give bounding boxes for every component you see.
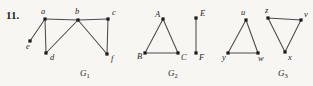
vertex-f <box>105 52 108 55</box>
vertex-group: abcedf <box>26 6 116 63</box>
graph-edge-u-y <box>228 20 246 53</box>
vertex-y <box>226 51 229 54</box>
vertex-label-z: z <box>264 5 269 15</box>
graph-G2: ABCEFG2 <box>137 8 206 79</box>
vertex-d <box>44 51 47 54</box>
graph-edge-b-f <box>78 20 107 54</box>
vertex-label-A: A <box>154 9 161 19</box>
vertex-F <box>194 51 197 54</box>
graph-G1: abcedfG1 <box>26 6 116 79</box>
figure-page: 11. abcedfG1ABCEFG2uywzvxG3 <box>0 0 313 86</box>
vertex-label-B: B <box>137 51 142 61</box>
vertex-label-y: y <box>221 52 226 62</box>
vertex-label-f: f <box>111 53 115 63</box>
vertex-label-a: a <box>41 6 45 16</box>
graph-caption-subscript-G3: 3 <box>285 72 288 79</box>
vertex-label-F: F <box>198 52 205 62</box>
vertex-x <box>283 50 286 53</box>
problem-number: 11. <box>6 9 19 21</box>
graph-caption-subscript-G1: 1 <box>87 72 90 79</box>
graph-caption-G1: G1 <box>80 68 90 79</box>
vertex-label-u: u <box>241 7 245 17</box>
vertex-group: uywzvx <box>221 5 308 63</box>
vertex-A <box>161 17 164 20</box>
problem-number-group: 11. <box>6 9 19 21</box>
graph-edge-u-w <box>246 20 258 53</box>
graph-edge-a-e <box>30 19 45 41</box>
graph-edge-a-b <box>45 19 78 20</box>
vertex-z <box>266 16 269 19</box>
graph-edge-z-x <box>268 18 285 52</box>
graph-edge-b-c <box>78 19 108 20</box>
graph-edge-v-x <box>285 20 301 52</box>
graph-edge-b-d <box>46 20 78 53</box>
graph-edge-A-B <box>145 19 163 53</box>
vertex-E <box>194 16 197 19</box>
vertex-C <box>176 51 179 54</box>
edge-group <box>145 18 196 53</box>
vertex-a <box>43 17 46 20</box>
graph-figure-svg: 11. abcedfG1ABCEFG2uywzvxG3 <box>0 0 313 86</box>
edge-group <box>30 19 108 54</box>
vertex-B <box>143 51 146 54</box>
vertex-label-e: e <box>26 41 30 51</box>
vertex-label-d: d <box>50 52 55 62</box>
vertex-b <box>76 18 79 21</box>
vertex-label-x: x <box>287 52 292 62</box>
graph-G3: uywzvxG3 <box>221 5 308 79</box>
graph-caption-G2: G2 <box>168 68 178 79</box>
graph-edge-A-C <box>163 19 178 53</box>
vertex-v <box>299 18 302 21</box>
vertex-label-w: w <box>258 53 264 63</box>
graph-edge-z-v <box>268 18 301 20</box>
vertex-u <box>244 18 247 21</box>
vertex-label-c: c <box>112 7 116 17</box>
graphs-layer: abcedfG1ABCEFG2uywzvxG3 <box>26 5 308 79</box>
graph-edge-a-d <box>45 19 46 53</box>
vertex-label-b: b <box>75 6 79 16</box>
graph-edge-c-f <box>107 19 108 54</box>
graph-caption-subscript-G2: 2 <box>175 72 178 79</box>
vertex-c <box>106 17 109 20</box>
vertex-label-C: C <box>181 52 187 62</box>
edge-group <box>228 18 301 53</box>
vertex-label-v: v <box>304 9 308 19</box>
graph-caption-G3: G3 <box>278 68 288 79</box>
vertex-label-E: E <box>199 8 206 18</box>
